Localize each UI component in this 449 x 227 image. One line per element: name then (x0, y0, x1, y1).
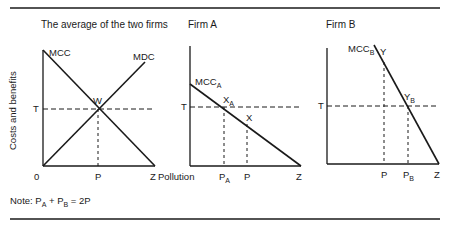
w-label: W (93, 95, 102, 106)
panel-firm-b: Firm B MCCB Y YB T P PB Z (318, 19, 440, 182)
t-label: T (181, 101, 187, 112)
figure: The average of the two firms Costs and b… (0, 0, 449, 227)
p-label: P (244, 171, 250, 182)
note: Note: PA + PB = 2P (10, 195, 91, 208)
t-label: T (33, 103, 39, 114)
mcc-a-curve (190, 84, 301, 166)
mcc-a-label: MCCA (195, 76, 222, 89)
panel-title: Firm B (326, 19, 356, 30)
xa-label: XA (223, 94, 234, 107)
panel-title: The average of the two firms (41, 19, 168, 30)
mdc-label: MDC (133, 51, 155, 62)
origin-label: 0 (34, 171, 39, 182)
y-label: Y (380, 46, 387, 57)
pa-label: PA (219, 171, 230, 184)
z-label: Z (296, 171, 302, 182)
panel-firm-a: Firm A MCCA XA X T Pollution PA P Z (158, 19, 302, 184)
mcc-b-label: MCCB (348, 43, 375, 56)
p-label: P (381, 169, 387, 180)
mcc-label: MCC (49, 47, 71, 58)
panel-title: Firm A (188, 19, 217, 30)
p-label: P (95, 171, 101, 182)
z-label: Z (150, 171, 156, 182)
y-axis-label: Costs and benefits (7, 71, 18, 150)
pb-label: PB (403, 169, 414, 182)
panel-average: The average of the two firms Costs and b… (7, 19, 168, 182)
pollution-label: Pollution (158, 171, 194, 182)
t-label: T (318, 100, 324, 111)
z-label: Z (434, 169, 440, 180)
x-label: X (246, 112, 253, 123)
mdc-curve (43, 62, 145, 166)
